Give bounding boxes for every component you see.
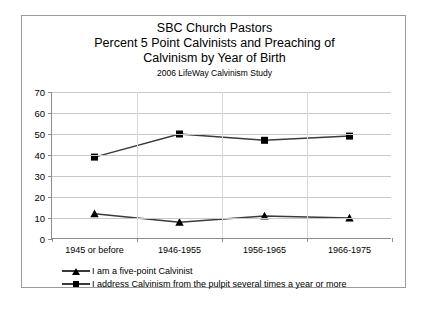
category-separator <box>137 92 138 238</box>
x-axis-tick <box>222 238 223 242</box>
x-axis-label: 1945 or before <box>65 245 124 255</box>
y-axis-label: 0 <box>40 234 45 245</box>
y-axis-label: 60 <box>34 108 45 119</box>
y-axis-label: 70 <box>34 87 45 98</box>
legend-marker-triangle <box>62 265 90 277</box>
triangle-icon <box>72 268 80 275</box>
x-axis-label: 1956-1965 <box>243 245 286 255</box>
chart-title-line-1: SBC Church Pastors <box>22 21 407 36</box>
y-axis-tick <box>48 218 52 219</box>
chart-title-line-2: Percent 5 Point Calvinists and Preaching… <box>22 36 407 51</box>
y-axis-tick <box>48 155 52 156</box>
chart-legend: I am a five-point CalvinistI address Cal… <box>62 265 382 291</box>
x-axis-label: 1966-1975 <box>328 245 371 255</box>
y-axis-tick <box>48 113 52 114</box>
chart-frame: SBC Church Pastors Percent 5 Point Calvi… <box>21 15 406 288</box>
x-axis-tick <box>307 238 308 242</box>
chart-screenshot: SBC Church Pastors Percent 5 Point Calvi… <box>0 0 428 309</box>
y-axis-tick <box>48 134 52 135</box>
chart-subtitle: 2006 LifeWay Calvinism Study <box>22 67 407 79</box>
data-point-square <box>261 137 268 144</box>
x-axis-tick <box>392 238 393 242</box>
square-icon <box>73 281 79 287</box>
chart-title-line-3: Calvinism by Year of Birth <box>22 51 407 66</box>
legend-marker-square <box>62 278 90 290</box>
legend-item[interactable]: I am a five-point Calvinist <box>62 265 382 277</box>
legend-item-label: I address Calvinism from the pulpit seve… <box>90 279 347 289</box>
legend-item-label: I am a five-point Calvinist <box>90 266 193 276</box>
x-axis-label: 1946-1955 <box>158 245 201 255</box>
y-axis-tick <box>48 197 52 198</box>
plot-area: 0102030405060701945 or before1946-195519… <box>51 92 391 239</box>
y-axis-label: 20 <box>34 192 45 203</box>
y-axis-label: 10 <box>34 213 45 224</box>
legend-item[interactable]: I address Calvinism from the pulpit seve… <box>62 278 382 290</box>
y-axis-label: 50 <box>34 129 45 140</box>
y-axis-tick <box>48 92 52 93</box>
chart-title-block: SBC Church Pastors Percent 5 Point Calvi… <box>22 21 407 79</box>
y-axis-label: 30 <box>34 171 45 182</box>
y-axis-label: 40 <box>34 150 45 161</box>
y-axis-tick <box>48 176 52 177</box>
x-axis-tick <box>52 238 53 242</box>
x-axis-tick <box>137 238 138 242</box>
category-separator <box>222 92 223 238</box>
category-separator <box>307 92 308 238</box>
